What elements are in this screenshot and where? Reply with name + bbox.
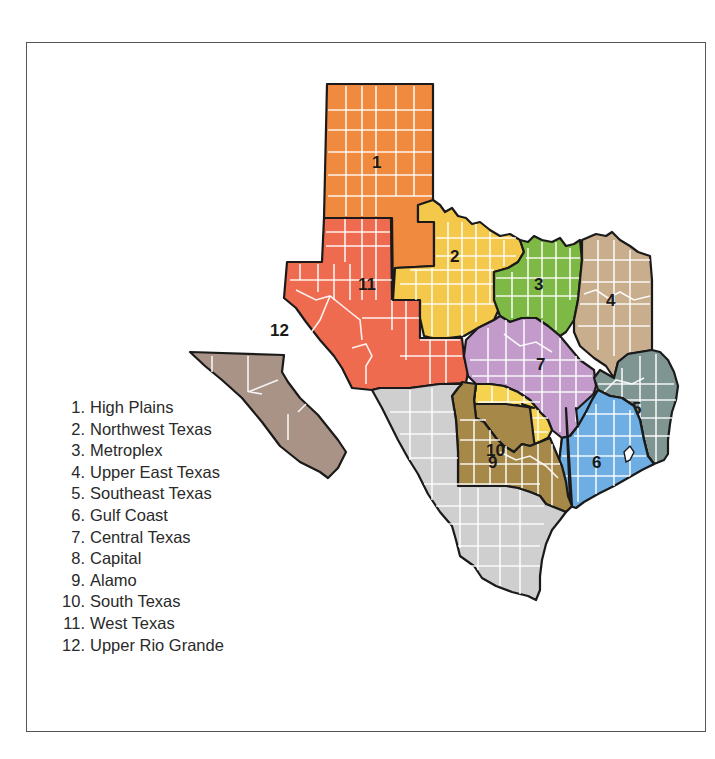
legend-item: 1.High Plains [61,397,224,419]
legend-text: Capital [90,549,141,567]
legend-text: Central Texas [90,528,191,546]
legend-text: Southeast Texas [90,484,212,502]
legend-number: 4. [61,462,85,484]
region-1-number: 1 [372,153,381,172]
legend-number: 7. [61,527,85,549]
legend-item: 9.Alamo [61,570,224,592]
legend-text: Northwest Texas [90,420,212,438]
legend-item: 11.West Texas [61,613,224,635]
legend-number: 8. [61,548,85,570]
legend-item: 7.Central Texas [61,527,224,549]
legend-item: 5.Southeast Texas [61,483,224,505]
legend-number: 9. [61,570,85,592]
legend-item: 2.Northwest Texas [61,419,224,441]
legend-number: 10. [61,591,85,613]
legend-text: Alamo [90,571,137,589]
legend-number: 5. [61,483,85,505]
legend-item: 8.Capital [61,548,224,570]
legend-item: 6.Gulf Coast [61,505,224,527]
legend-text: High Plains [90,398,173,416]
legend-number: 2. [61,419,85,441]
legend-item: 12.Upper Rio Grande [61,635,224,657]
legend-text: Upper Rio Grande [90,636,224,654]
region-4-number: 4 [606,291,616,310]
legend-item: 3.Metroplex [61,440,224,462]
legend-item: 4.Upper East Texas [61,462,224,484]
legend-number: 12. [61,635,85,657]
region-6-number: 6 [592,453,601,472]
legend-number: 6. [61,505,85,527]
legend-number: 1. [61,397,85,419]
region-10-number: 10 [486,441,505,460]
region-legend: 1.High Plains 2.Northwest Texas 3.Metrop… [61,397,224,656]
region-2-number: 2 [450,247,459,266]
legend-text: South Texas [90,592,181,610]
region-3-number: 3 [534,275,543,294]
legend-text: West Texas [90,614,175,632]
region-11-number: 11 [358,275,376,294]
legend-number: 3. [61,440,85,462]
region-12-number: 12 [270,321,289,340]
legend-text: Gulf Coast [90,506,168,524]
legend-number: 11. [61,613,85,635]
legend-text: Upper East Texas [90,463,220,481]
legend-text: Metroplex [90,441,162,459]
legend-item: 10.South Texas [61,591,224,613]
region-7-number: 7 [536,355,545,374]
